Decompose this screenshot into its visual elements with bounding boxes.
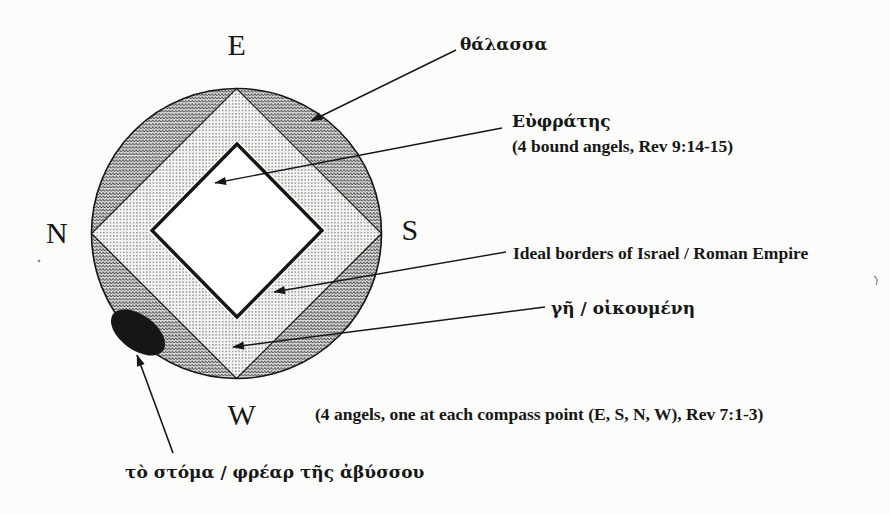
euphrates-note: (4 bound angels, Rev 9:14-15): [512, 136, 733, 156]
earth-label: γῆ / οἰκουμένη: [551, 298, 695, 318]
sea-label: θάλασσα: [460, 34, 548, 54]
abyss-label: τὸ στόμα / φρέαρ τῆς ἀβύσσου: [125, 462, 425, 482]
compass-east-label: E: [228, 28, 247, 61]
scanned-diagram-page: E S N W θάλασσα Εὐφράτης (4 bound angels…: [0, 0, 890, 514]
israel-borders-label: Ideal borders of Israel / Roman Empire: [513, 243, 808, 263]
diagram-canvas: E S N W θάλασσα Εὐφράτης (4 bound angels…: [0, 0, 890, 514]
compass-west-label: W: [228, 398, 257, 431]
euphrates-label: Εὐφράτης: [512, 111, 611, 131]
scan-speck: [38, 260, 41, 263]
compass-north-label: N: [46, 216, 68, 249]
compass-south-label: S: [401, 213, 418, 246]
compass-angels-note: (4 angels, one at each compass point (E,…: [315, 404, 764, 424]
